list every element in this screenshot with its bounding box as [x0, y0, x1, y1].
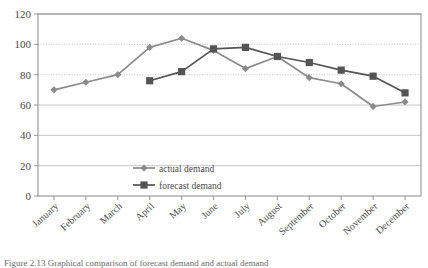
datapoint-forecast-demand-october: [338, 67, 345, 74]
datapoint-actual-demand-january: [50, 86, 57, 93]
ytick-label-0: 0: [26, 190, 32, 202]
datapoint-actual-demand-may: [178, 35, 185, 42]
ytick-label-20: 20: [20, 160, 32, 172]
datapoint-forecast-demand-june: [210, 45, 217, 52]
xtick-label-may: May: [167, 200, 188, 220]
datapoint-forecast-demand-august: [274, 53, 281, 60]
xtick-label-december: December: [373, 200, 411, 236]
datapoint-forecast-demand-may: [178, 68, 185, 75]
xtick-label-september: September: [276, 200, 316, 237]
datapoint-actual-demand-december: [401, 98, 408, 105]
ytick-label-80: 80: [20, 69, 32, 81]
xtick-label-august: August: [255, 200, 284, 228]
ytick-label-60: 60: [20, 99, 32, 111]
xtick-label-january: January: [30, 200, 60, 229]
datapoint-actual-demand-february: [82, 79, 89, 86]
xtick-label-march: March: [97, 200, 124, 226]
legend-marker-1: [140, 181, 147, 188]
ytick-label-100: 100: [15, 38, 32, 50]
xtick-label-april: April: [133, 200, 156, 222]
ytick-label-40: 40: [20, 129, 32, 141]
ytick-label-120: 120: [15, 8, 32, 20]
xtick-label-june: June: [199, 200, 220, 221]
figure-caption: Figure 2.13 Graphical comparison of fore…: [4, 258, 424, 268]
xtick-label-july: July: [232, 200, 252, 219]
datapoint-actual-demand-july: [242, 65, 249, 72]
xtick-label-november: November: [341, 200, 380, 237]
datapoint-forecast-demand-april: [146, 77, 153, 84]
datapoint-forecast-demand-november: [370, 73, 377, 80]
datapoint-forecast-demand-july: [242, 44, 249, 51]
datapoint-forecast-demand-december: [401, 89, 408, 96]
legend-label-forecast-demand: forecast demand: [159, 181, 222, 191]
legend-label-actual-demand: actual demand: [159, 164, 214, 174]
xtick-label-february: February: [58, 200, 92, 232]
datapoint-forecast-demand-september: [306, 59, 313, 66]
